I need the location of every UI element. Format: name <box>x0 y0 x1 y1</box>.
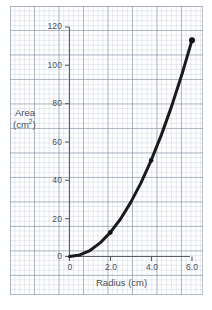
y-tick-label-100: 100 <box>36 61 62 70</box>
y-tick-label-60: 60 <box>36 138 62 147</box>
y-tick-marks <box>65 27 70 257</box>
data-point-marker <box>149 158 154 163</box>
y-axis-title-line1: Area <box>15 107 35 118</box>
y-axis-unit-prefix: (cm <box>13 119 29 130</box>
chart-figure: 120 100 80 60 40 20 0 0 2.0 4.0 6.0 Area… <box>0 0 212 310</box>
y-tick-label-80: 80 <box>36 99 62 108</box>
x-tick-label-2: 2.0 <box>100 263 122 272</box>
y-axis-unit-suffix: ) <box>32 119 35 130</box>
y-tick-label-120: 120 <box>36 22 62 31</box>
x-axis-title: Radius (cm) <box>96 277 147 288</box>
x-tick-marks <box>70 257 193 262</box>
data-curve <box>70 40 193 256</box>
y-tick-label-0: 0 <box>36 252 62 261</box>
data-point-marker <box>189 37 195 43</box>
x-tick-label-6: 6.0 <box>181 263 203 272</box>
x-tick-label-4: 4.0 <box>141 263 163 272</box>
y-tick-label-40: 40 <box>36 176 62 185</box>
data-point-marker <box>108 230 113 235</box>
x-tick-label-0: 0 <box>62 263 78 272</box>
data-point-markers <box>108 37 195 235</box>
y-axis-title-line2: (cm2) <box>13 119 36 130</box>
y-tick-label-20: 20 <box>36 215 62 224</box>
